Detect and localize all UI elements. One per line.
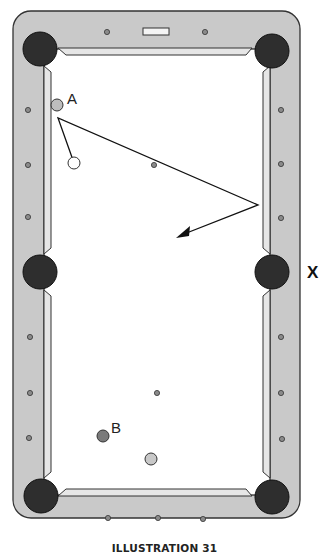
pocket-side-left — [23, 255, 57, 289]
head-spot — [154, 390, 159, 395]
foot-spot — [151, 162, 156, 167]
label-side-marker: X — [307, 263, 319, 282]
ball-b — [97, 430, 109, 442]
pocket-top-left — [23, 32, 57, 66]
illustration-caption: ILLUSTRATION 31 — [0, 542, 329, 554]
table-felt — [44, 49, 270, 495]
ball-a — [51, 99, 63, 111]
pocket-top-right — [255, 34, 289, 68]
pocket-bottom-right — [255, 480, 289, 514]
name-plate — [143, 28, 169, 35]
ball-light — [145, 453, 157, 465]
pocket-bottom-left — [24, 479, 58, 513]
cue-ball — [68, 157, 80, 169]
pool-table-diagram: A B X — [0, 0, 329, 560]
pocket-side-right — [255, 255, 289, 289]
label-ball-a: A — [67, 90, 77, 107]
label-ball-b: B — [111, 419, 121, 436]
